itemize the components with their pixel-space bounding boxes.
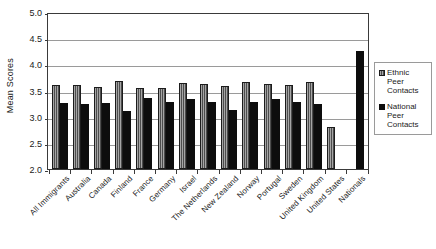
bar (187, 99, 195, 169)
bar (81, 104, 89, 169)
legend-entry: Ethnic Peer Contacts (379, 68, 428, 95)
bar-group (346, 14, 367, 169)
bar (293, 102, 301, 170)
legend-swatch-national (379, 104, 385, 110)
legend-swatch-ethnic (379, 70, 385, 76)
y-axis-tick-labels: 2.02.53.03.54.04.55.0 (18, 0, 44, 180)
bar-group (134, 14, 155, 169)
bar-group (240, 14, 261, 169)
bar (200, 84, 208, 169)
bar (60, 103, 68, 169)
bar-group (197, 14, 218, 169)
bar (264, 84, 272, 169)
y-axis-tick-label: 2.5 (29, 139, 42, 149)
bar-groups (48, 14, 368, 169)
bar (327, 127, 335, 169)
bar-group (282, 14, 303, 169)
bar-group (155, 14, 176, 169)
legend-entry: National Peer Contacts (379, 102, 428, 129)
bar-group (325, 14, 346, 169)
bar (144, 98, 152, 169)
bar (52, 85, 60, 169)
bar (166, 102, 174, 170)
bar (94, 87, 102, 169)
x-axis-category-labels: All ImmigrantsAustraliaCanadaFinlandFran… (47, 174, 377, 249)
bar-group (176, 14, 197, 169)
y-axis-tick-label: 4.5 (29, 34, 42, 44)
legend-label: Ethnic Peer Contacts (387, 68, 428, 95)
y-axis-tick-label: 3.0 (29, 113, 42, 123)
bar (306, 82, 314, 169)
bar (208, 102, 216, 169)
bar-group (113, 14, 134, 169)
bar (272, 99, 280, 169)
bar (136, 88, 144, 169)
bar (250, 102, 258, 169)
bar (285, 85, 293, 169)
legend-label: National Peer Contacts (387, 102, 428, 129)
bar (158, 88, 166, 169)
y-axis-tick-label: 5.0 (29, 8, 42, 18)
bar-group (70, 14, 91, 169)
chart-legend: Ethnic Peer ContactsNational Peer Contac… (374, 62, 432, 135)
bar (221, 86, 229, 169)
bar (179, 83, 187, 169)
bar (115, 81, 123, 169)
bar (356, 51, 364, 169)
bar-group (261, 14, 282, 169)
bar-group (49, 14, 70, 169)
y-axis-tick-label: 2.0 (29, 165, 42, 175)
y-axis-title-text: Mean Scores (5, 58, 15, 113)
y-axis-tick-label: 3.5 (29, 87, 42, 97)
bar (314, 104, 322, 169)
bar (229, 110, 237, 169)
bar (73, 85, 81, 169)
bar-group (91, 14, 112, 169)
bar-group (219, 14, 240, 169)
bar (242, 82, 250, 169)
bar (102, 103, 110, 169)
y-axis-title: Mean Scores (2, 0, 18, 172)
chart-page: Mean Scores 2.02.53.03.54.04.55.0 All Im… (0, 0, 436, 249)
bar (123, 111, 131, 169)
y-axis-tick-label: 4.0 (29, 60, 42, 70)
plot-area (47, 13, 369, 170)
bar-group (303, 14, 324, 169)
x-axis-category-label: Finland (109, 174, 134, 199)
